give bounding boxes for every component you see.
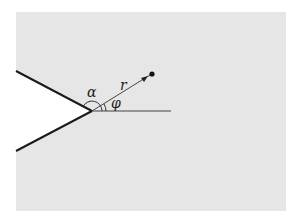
point-marker: [149, 71, 154, 76]
alpha-label: α: [87, 84, 97, 100]
wedge-diagram: α r φ: [0, 0, 301, 221]
phi-label: φ: [111, 95, 121, 111]
